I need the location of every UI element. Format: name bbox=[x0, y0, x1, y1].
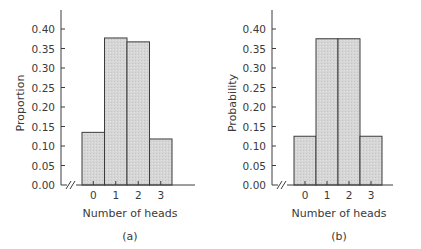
y-tick-label: 0.10 bbox=[243, 140, 266, 152]
axis-break-icon bbox=[66, 181, 75, 189]
y-tick-label: 0.15 bbox=[32, 121, 55, 133]
y-tick-label: 0.30 bbox=[32, 62, 55, 74]
y-tick-label: 0.15 bbox=[243, 121, 266, 133]
y-tick-label: 0.25 bbox=[243, 82, 266, 94]
x-tick-label: 0 bbox=[90, 189, 97, 201]
y-tick-label: 0.25 bbox=[32, 82, 55, 94]
y-tick-label: 0.05 bbox=[243, 160, 266, 172]
y-tick-label: 0.10 bbox=[32, 140, 55, 152]
bar-3 bbox=[150, 139, 173, 185]
x-tick-label: 1 bbox=[112, 189, 119, 201]
bar-2 bbox=[338, 39, 360, 185]
bar-1 bbox=[105, 38, 128, 185]
axis-break-icon bbox=[277, 181, 286, 189]
x-tick-label: 0 bbox=[302, 189, 309, 201]
y-tick-label: 0.20 bbox=[32, 101, 55, 113]
bar-0 bbox=[294, 136, 316, 185]
figure: 01230.000.050.100.150.200.250.300.350.40… bbox=[0, 0, 421, 249]
y-axis-label: Proportion bbox=[14, 75, 27, 132]
y-tick-label: 0.05 bbox=[32, 160, 55, 172]
x-tick-label: 2 bbox=[346, 189, 353, 201]
x-tick-label: 1 bbox=[324, 189, 331, 201]
y-axis-label: Probability bbox=[226, 73, 239, 132]
y-tick-label: 0.00 bbox=[32, 179, 55, 191]
bar-2 bbox=[127, 42, 150, 185]
y-tick-label: 0.20 bbox=[243, 101, 266, 113]
y-tick-label: 0.00 bbox=[243, 179, 266, 191]
x-axis-label: Number of heads bbox=[83, 207, 178, 220]
y-tick-label: 0.30 bbox=[243, 62, 266, 74]
bar-0 bbox=[82, 132, 105, 185]
x-axis-label: Number of heads bbox=[292, 207, 387, 220]
chart-panel-b: 01230.000.050.100.150.200.250.300.350.40… bbox=[226, 10, 393, 243]
bar-1 bbox=[316, 39, 338, 185]
panel-caption: (a) bbox=[122, 230, 137, 243]
y-tick-label: 0.40 bbox=[243, 23, 266, 35]
x-tick-label: 3 bbox=[157, 189, 164, 201]
panel-caption: (b) bbox=[331, 230, 347, 243]
chart-panel-a: 01230.000.050.100.150.200.250.300.350.40… bbox=[14, 10, 195, 243]
y-tick-label: 0.35 bbox=[32, 43, 55, 55]
y-tick-label: 0.40 bbox=[32, 23, 55, 35]
x-tick-label: 3 bbox=[368, 189, 375, 201]
y-tick-label: 0.35 bbox=[243, 43, 266, 55]
x-tick-label: 2 bbox=[135, 189, 142, 201]
bar-3 bbox=[360, 136, 382, 185]
